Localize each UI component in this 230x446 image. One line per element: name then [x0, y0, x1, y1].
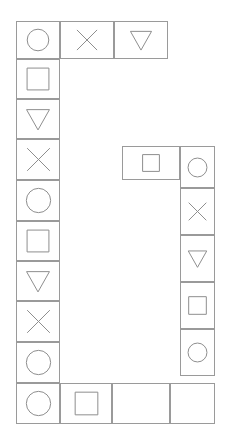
cell-left-8[interactable] — [16, 342, 60, 383]
circle-icon — [25, 187, 52, 214]
circle-icon — [187, 342, 208, 363]
cell-top-1[interactable] — [16, 21, 60, 59]
cell-left-2[interactable] — [16, 99, 60, 139]
square-icon — [73, 390, 100, 417]
cell-right-3[interactable] — [180, 235, 215, 282]
board-track — [0, 0, 230, 446]
cell-top-2[interactable] — [60, 21, 114, 59]
circle-icon — [25, 349, 52, 376]
triangle-down-icon — [25, 268, 51, 294]
cell-left-1[interactable] — [16, 59, 60, 99]
square-icon — [187, 295, 208, 316]
triangle-down-icon — [129, 28, 153, 52]
cross-icon — [75, 28, 99, 52]
cell-right-1[interactable] — [180, 146, 215, 188]
triangle-down-icon — [187, 248, 208, 269]
cross-icon — [25, 308, 52, 335]
cross-icon — [25, 146, 52, 173]
triangle-down-icon — [25, 106, 51, 132]
cross-icon — [187, 201, 208, 222]
cell-right-5[interactable] — [180, 329, 215, 376]
cell-left-5[interactable] — [16, 221, 60, 261]
cell-left-3[interactable] — [16, 139, 60, 180]
square-icon — [25, 66, 51, 92]
circle-icon — [25, 390, 52, 417]
circle-icon — [26, 28, 50, 52]
cell-bottom-3[interactable] — [112, 383, 170, 424]
cell-mid-1[interactable] — [122, 146, 180, 180]
cell-bottom-1[interactable] — [16, 383, 60, 424]
cell-right-4[interactable] — [180, 282, 215, 329]
cell-bottom-2[interactable] — [60, 383, 112, 424]
cell-right-2[interactable] — [180, 188, 215, 235]
square-icon — [141, 153, 161, 173]
circle-icon — [187, 157, 208, 178]
cell-bottom-4[interactable] — [170, 383, 215, 424]
square-icon — [25, 228, 51, 254]
cell-left-6[interactable] — [16, 261, 60, 301]
cell-left-7[interactable] — [16, 301, 60, 342]
cell-left-4[interactable] — [16, 180, 60, 221]
cell-top-3[interactable] — [114, 21, 168, 59]
